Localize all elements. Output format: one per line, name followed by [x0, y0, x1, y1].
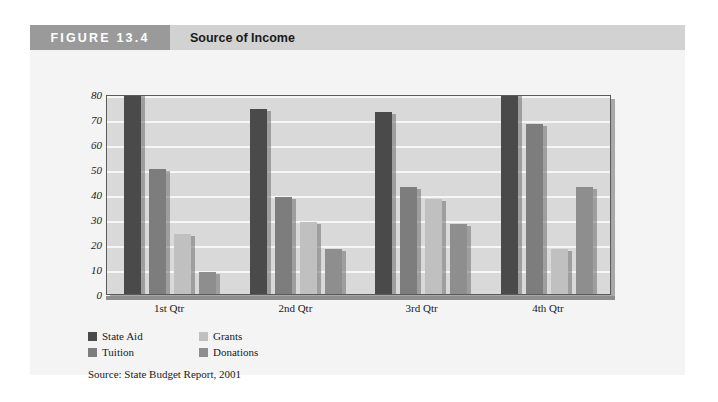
bar-shadow	[141, 96, 145, 295]
bar-slot	[275, 96, 292, 294]
bar-shadow	[518, 96, 522, 295]
y-tick-label: 40	[91, 189, 102, 201]
bar-slot	[124, 96, 141, 294]
bar[interactable]	[300, 222, 317, 295]
bar-group	[233, 96, 359, 294]
bar-slot	[199, 96, 216, 294]
legend-label: Grants	[213, 330, 242, 342]
legend-swatch	[88, 348, 97, 357]
bar-shadow	[191, 236, 195, 295]
bar-slot	[526, 96, 543, 294]
bar[interactable]	[501, 95, 518, 294]
x-axis-line	[106, 296, 615, 300]
legend-label: State Aid	[102, 330, 143, 342]
bar-shadow	[166, 171, 170, 295]
figure-card: FIGURE 13.4 Source of Income 01020304050…	[30, 25, 685, 375]
bar-slot	[375, 96, 392, 294]
figure-title: Source of Income	[170, 25, 685, 50]
x-tick-label: 2nd Qtr	[232, 302, 358, 314]
y-tick-label: 30	[91, 214, 102, 226]
bar-groups	[107, 96, 610, 294]
bar-slot	[325, 96, 342, 294]
bar-shadow	[392, 114, 396, 296]
bar[interactable]	[450, 224, 467, 294]
y-tick-label: 70	[91, 114, 102, 126]
bar-group	[484, 96, 610, 294]
bar-slot	[551, 96, 568, 294]
bar[interactable]	[425, 199, 442, 294]
legend-item[interactable]: State Aid	[88, 328, 193, 344]
legend-swatch	[88, 332, 97, 341]
bar-shadow	[317, 224, 321, 296]
bar[interactable]	[149, 169, 166, 294]
figure-number-label: FIGURE 13.4	[30, 25, 170, 50]
figure-header: FIGURE 13.4 Source of Income	[30, 25, 685, 50]
bar-group	[359, 96, 485, 294]
legend-item[interactable]: Grants	[199, 328, 258, 344]
bar[interactable]	[526, 124, 543, 294]
bar-slot	[149, 96, 166, 294]
legend-swatch	[199, 348, 208, 357]
bar[interactable]	[275, 197, 292, 295]
bar-group	[107, 96, 233, 294]
bar-slot	[501, 96, 518, 294]
bar[interactable]	[400, 187, 417, 295]
y-tick-label: 20	[91, 239, 102, 251]
y-axis: 01020304050607080	[70, 95, 102, 295]
bar-shadow	[342, 251, 346, 295]
bar[interactable]	[325, 249, 342, 294]
bar-shadow	[292, 199, 296, 296]
bar-slot	[250, 96, 267, 294]
chart-region: 01020304050607080 1st Qtr2nd Qtr3rd Qtr4…	[30, 50, 685, 375]
x-tick-label: 3rd Qtr	[359, 302, 485, 314]
bar-shadow	[216, 274, 220, 296]
bar-shadow	[593, 189, 597, 296]
bar-slot	[576, 96, 593, 294]
bar-slot	[400, 96, 417, 294]
bar-shadow	[568, 251, 572, 295]
bar[interactable]	[551, 249, 568, 294]
bar[interactable]	[375, 112, 392, 295]
legend-item[interactable]: Donations	[199, 344, 258, 360]
legend-label: Donations	[213, 346, 258, 358]
legend-label: Tuition	[102, 346, 134, 358]
y-tick-label: 0	[97, 289, 103, 301]
bar-slot	[174, 96, 191, 294]
bar-shadow	[417, 189, 421, 296]
bar[interactable]	[250, 109, 267, 294]
bar-shadow	[442, 201, 446, 295]
chart-legend: State AidGrantsTuitionDonations	[88, 328, 258, 360]
bar[interactable]	[124, 95, 141, 294]
legend-swatch	[199, 332, 208, 341]
legend-item[interactable]: Tuition	[88, 344, 193, 360]
bar-slot	[425, 96, 442, 294]
bar-slot	[450, 96, 467, 294]
bar-shadow	[467, 226, 471, 295]
bar[interactable]	[174, 234, 191, 294]
bar[interactable]	[576, 187, 593, 295]
y-tick-label: 10	[91, 264, 102, 276]
x-axis: 1st Qtr2nd Qtr3rd Qtr4th Qtr	[106, 302, 611, 314]
plot-area	[106, 95, 611, 295]
source-note: Source: State Budget Report, 2001	[88, 368, 241, 380]
y-tick-label: 50	[91, 164, 102, 176]
bar-shadow	[543, 126, 547, 295]
x-tick-label: 4th Qtr	[485, 302, 611, 314]
y-tick-label: 60	[91, 139, 102, 151]
bar-shadow	[267, 111, 271, 295]
x-tick-label: 1st Qtr	[106, 302, 232, 314]
y-tick-label: 80	[91, 89, 102, 101]
bar-slot	[300, 96, 317, 294]
bar[interactable]	[199, 272, 216, 295]
